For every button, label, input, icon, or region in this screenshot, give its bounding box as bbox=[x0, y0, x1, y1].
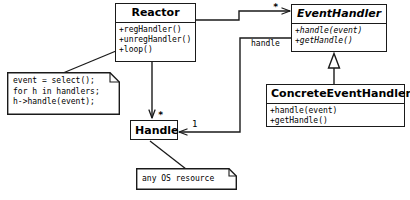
class-box-eventhandler[interactable]: EventHandler +handle(event) +getHandle() bbox=[291, 4, 387, 52]
class-members-reactor: +regHandler() +unregHandler() +loop() bbox=[116, 23, 195, 57]
note-anchor-reactor-loop bbox=[63, 51, 116, 73]
edge-reactor-to-eventhandler bbox=[195, 11, 290, 20]
note-text-reactor-loop: event = select(); for h in handlers; h->… bbox=[13, 76, 114, 108]
class-title-eventhandler: EventHandler bbox=[292, 5, 386, 24]
class-member: +unregHandler() bbox=[119, 35, 192, 45]
multiplicity-reactor-handle: * bbox=[158, 111, 163, 120]
note-line: event = select(); bbox=[13, 76, 114, 87]
class-member: +handle(event) bbox=[295, 26, 383, 36]
multiplicity-reactor-eventhandler: * bbox=[273, 3, 278, 12]
class-members-concreteeventhandler: +handle(event) +getHandle() bbox=[267, 104, 404, 128]
note-text-handle-resource: any OS resource bbox=[142, 174, 231, 185]
class-box-reactor[interactable]: Reactor +regHandler() +unregHandler() +l… bbox=[115, 3, 196, 62]
class-member: +regHandler() bbox=[119, 25, 192, 35]
class-member: +getHandle() bbox=[270, 116, 401, 126]
note-handle-resource: any OS resource bbox=[136, 168, 237, 190]
note-line: any OS resource bbox=[142, 174, 231, 185]
note-line: h->handle(event); bbox=[13, 97, 114, 108]
class-member: +handle(event) bbox=[270, 106, 401, 116]
class-member: +getHandle() bbox=[295, 36, 383, 46]
class-title-reactor: Reactor bbox=[116, 4, 195, 23]
note-anchor-handle-resource bbox=[150, 141, 186, 169]
note-line: for h in handlers; bbox=[13, 87, 114, 98]
class-member: +loop() bbox=[119, 45, 192, 55]
class-members-eventhandler: +handle(event) +getHandle() bbox=[292, 24, 386, 48]
class-box-handle[interactable]: Handle bbox=[130, 120, 178, 140]
class-title-handle: Handle bbox=[131, 121, 177, 140]
edge-label-handle: handle bbox=[251, 40, 280, 48]
class-box-concreteeventhandler[interactable]: ConcreteEventHandler +handle(event) +get… bbox=[266, 84, 405, 127]
edge-concrete-to-eventhandler bbox=[329, 54, 340, 85]
multiplicity-eventhandler-handle: 1 bbox=[192, 120, 197, 129]
uml-diagram-canvas: Reactor +regHandler() +unregHandler() +l… bbox=[0, 0, 410, 200]
class-title-concreteeventhandler: ConcreteEventHandler bbox=[267, 85, 404, 104]
note-reactor-loop: event = select(); for h in handlers; h->… bbox=[7, 72, 120, 115]
